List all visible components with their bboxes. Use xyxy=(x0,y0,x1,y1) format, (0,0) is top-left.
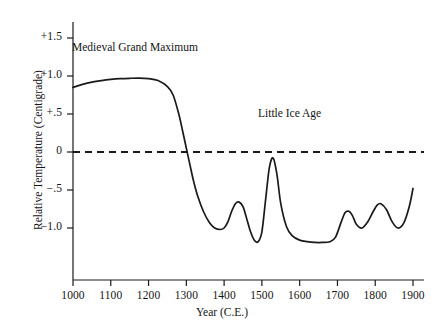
chart-figure: +1.5+1.0+.50−.5−1.0 10001100120013001400… xyxy=(0,0,444,335)
annotation-medieval-grand-maximum: Medieval Grand Maximum xyxy=(72,41,198,53)
y-axis-title: Relative Temperature (Centigrade) xyxy=(32,35,44,265)
axes xyxy=(73,22,424,280)
series-line-relative-temperature xyxy=(73,78,413,242)
x-axis-ticks xyxy=(73,280,413,286)
x-axis-title: Year (C.E.) xyxy=(0,306,444,318)
x-tick-label: 1900 xyxy=(388,289,438,301)
annotation-little-ice-age: Little Ice Age xyxy=(258,107,321,119)
y-axis-ticks xyxy=(67,38,73,228)
temperature-line-chart xyxy=(0,0,444,335)
data-series xyxy=(73,78,413,242)
